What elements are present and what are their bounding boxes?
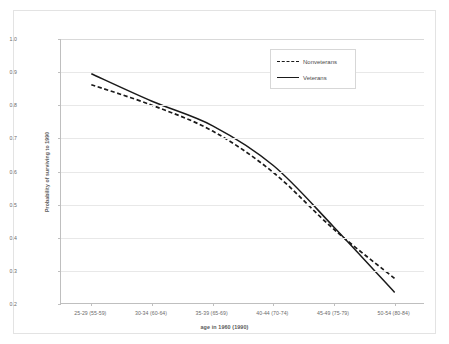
y-tick-mark: [58, 39, 61, 40]
x-tick-mark: [91, 303, 92, 306]
x-tick-mark: [273, 303, 274, 306]
x-tick-mark: [213, 303, 214, 306]
x-axis-title: age in 1960 (1990): [14, 324, 435, 330]
y-tick-label: 0.8: [0, 102, 17, 108]
legend-item-veterans[interactable]: Veterans: [277, 73, 327, 83]
x-tick-label: 30-34 (60-64): [135, 310, 167, 316]
gridline: [61, 172, 424, 173]
gridline: [61, 205, 424, 206]
y-tick-label: 0.5: [0, 202, 17, 208]
legend-label-veterans: Veterans: [303, 75, 327, 81]
y-tick-label: 0.9: [0, 69, 17, 75]
y-axis-title: Probability of surviving to 1990: [44, 131, 50, 211]
y-tick-mark: [58, 238, 61, 239]
y-tick-label: 1.0: [0, 36, 17, 42]
y-tick-mark: [58, 304, 61, 305]
y-tick-label: 0.3: [0, 268, 17, 274]
chart-frame: Probability of surviving to 1990 Nonvete…: [13, 10, 436, 334]
legend-item-nonveterans[interactable]: Nonveterans: [277, 57, 337, 67]
x-tick-mark: [395, 303, 396, 306]
x-tick-label: 45-49 (75-79): [317, 310, 349, 316]
y-tick-label: 0.4: [0, 235, 17, 241]
series-line-nonveterans: [91, 85, 394, 279]
y-tick-label: 0.7: [0, 135, 17, 141]
y-tick-mark: [58, 172, 61, 173]
x-tick-label: 25-29 (55-59): [74, 310, 106, 316]
dashed-line-icon: [277, 58, 299, 66]
y-tick-label: 0.2: [0, 301, 17, 307]
y-tick-mark: [58, 105, 61, 106]
x-tick-label: 35-39 (65-69): [196, 310, 228, 316]
chart-legend: Nonveterans Veterans: [270, 49, 356, 89]
gridline: [61, 271, 424, 272]
y-tick-mark: [58, 205, 61, 206]
plot-area: [60, 39, 424, 304]
y-tick-mark: [58, 72, 61, 73]
gridline: [61, 39, 424, 40]
gridline: [61, 72, 424, 73]
solid-line-icon: [277, 74, 299, 82]
gridline: [61, 138, 424, 139]
x-tick-label: 40-44 (70-74): [256, 310, 288, 316]
x-tick-label: 50-54 (80-84): [378, 310, 410, 316]
x-tick-mark: [334, 303, 335, 306]
y-tick-mark: [58, 271, 61, 272]
legend-label-nonveterans: Nonveterans: [303, 59, 337, 65]
y-tick-label: 0.6: [0, 169, 17, 175]
series-line-veterans: [91, 74, 394, 293]
gridline: [61, 238, 424, 239]
y-tick-mark: [58, 138, 61, 139]
gridline: [61, 105, 424, 106]
x-tick-mark: [152, 303, 153, 306]
